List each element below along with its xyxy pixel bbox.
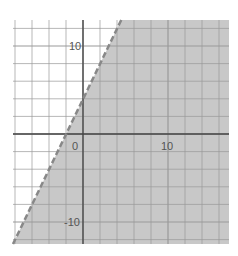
shaded-region xyxy=(13,20,229,244)
inequality-graph: 0 10 10 -10 xyxy=(0,0,238,256)
y-tick-label-10: 10 xyxy=(69,40,81,52)
y-tick-label-neg10: -10 xyxy=(64,216,80,228)
x-tick-label-0: 0 xyxy=(72,140,78,152)
x-tick-label-10: 10 xyxy=(161,140,173,152)
